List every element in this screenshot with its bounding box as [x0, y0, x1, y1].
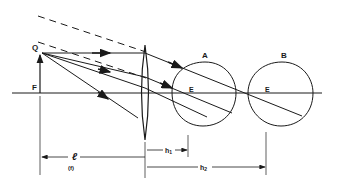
label-f: F	[32, 83, 37, 92]
label-q: Q	[32, 43, 38, 52]
label-ell: ℓ	[72, 151, 78, 162]
ray-bottom	[42, 53, 138, 118]
label-b: B	[281, 51, 287, 60]
optics-diagram: Q F A B E E ℓ (f) h1 h2	[0, 0, 337, 182]
eye-b	[248, 62, 313, 126]
dashed-ray-lower	[38, 42, 146, 78]
ray-arrow	[98, 69, 110, 72]
label-e-eye-b: E	[265, 86, 270, 93]
ray-low	[42, 53, 145, 88]
ray-arrow	[168, 62, 182, 68]
ray-low-refracted	[145, 88, 207, 117]
eye-a	[172, 62, 236, 126]
label-f-paren: (f)	[68, 165, 74, 171]
ray-mid	[42, 53, 145, 77]
label-a: A	[202, 51, 208, 60]
ray-arrow	[160, 83, 172, 88]
label-e-eye-a: E	[189, 86, 194, 93]
label-h1: h1	[165, 147, 172, 155]
dashed-ray-upper	[38, 16, 146, 52]
label-h2: h2	[200, 164, 207, 172]
